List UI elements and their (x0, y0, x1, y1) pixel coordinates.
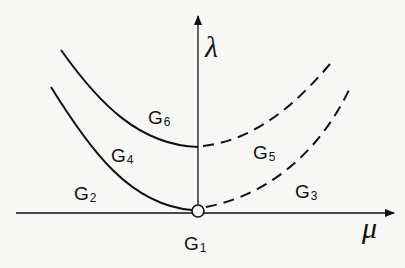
origin-marker (192, 205, 204, 217)
region-g4: G4 (111, 145, 134, 167)
upper-curve-dashed (203, 64, 330, 146)
mu-label: μ (361, 211, 377, 244)
region-g3: G3 (295, 181, 318, 203)
region-g1: G1 (184, 233, 207, 255)
lower-curve-dashed (206, 90, 349, 207)
region-g5: G5 (253, 142, 276, 164)
region-g2: G2 (74, 183, 97, 205)
lambda-label: λ (204, 30, 218, 63)
region-g6: G6 (148, 107, 171, 129)
bifurcation-diagram: λ μ G6 G4 G2 G5 G3 G1 (0, 0, 405, 268)
